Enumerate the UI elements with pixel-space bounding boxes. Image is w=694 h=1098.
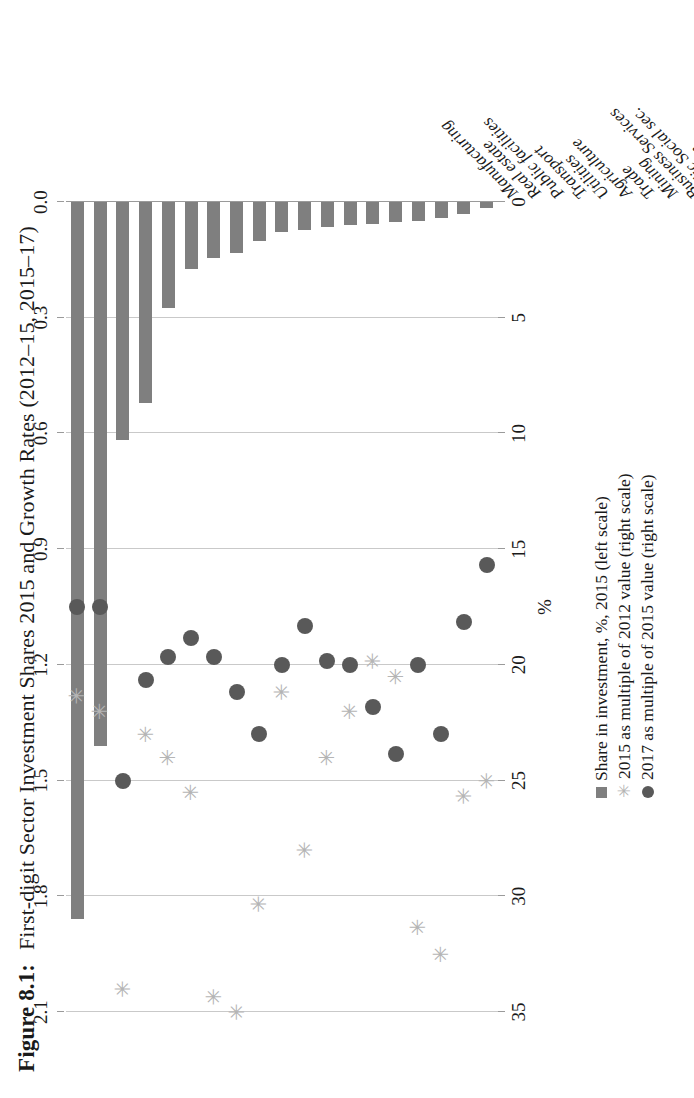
right-axis-tick-label: 0.3 bbox=[30, 306, 52, 330]
figure: Figure 8.1: First-digit Sector Investmen… bbox=[0, 0, 694, 1098]
tick-mark bbox=[57, 548, 64, 549]
bar-share-2015 bbox=[116, 202, 129, 440]
legend-item: Share in investment, %, 2015 (left scale… bbox=[590, 473, 613, 798]
marker-growth-2015-2017 bbox=[479, 557, 495, 573]
legend: Share in investment, %, 2015 (left scale… bbox=[590, 473, 659, 798]
tick-mark bbox=[57, 432, 64, 433]
chart-row: ✳ bbox=[89, 202, 112, 1012]
chart-row: ✳ bbox=[293, 202, 316, 1012]
marker-growth-2015-2017 bbox=[229, 684, 245, 700]
legend-label: Share in investment, %, 2015 (left scale… bbox=[590, 496, 613, 781]
bar-share-2015 bbox=[275, 202, 288, 232]
legend-label: 2017 as multiple of 2015 value (right sc… bbox=[636, 474, 659, 780]
marker-growth-2015-2017 bbox=[410, 657, 426, 673]
chart-row: ✳ bbox=[430, 202, 453, 1012]
bar-share-2015 bbox=[185, 202, 198, 269]
chart-row: ✳ bbox=[66, 202, 89, 1012]
bar-share-2015 bbox=[366, 202, 379, 224]
bar-share-2015 bbox=[94, 202, 107, 746]
marker-growth-2015-2017 bbox=[297, 618, 313, 634]
marker-growth-2015-2017 bbox=[251, 726, 267, 742]
bar-share-2015 bbox=[139, 202, 152, 403]
bar-share-2015 bbox=[207, 202, 220, 258]
right-axis-tick-label: 1.2 bbox=[30, 653, 52, 677]
chart-row: ✳ bbox=[407, 202, 430, 1012]
bar-share-2015 bbox=[457, 202, 470, 214]
marker-growth-2015-2017 bbox=[388, 746, 404, 762]
bar-share-2015 bbox=[298, 202, 311, 230]
circle-icon bbox=[642, 786, 654, 798]
chart-row: ✳ bbox=[384, 202, 407, 1012]
right-axis-tick-label: 0.6 bbox=[30, 422, 52, 446]
marker-growth-2015-2017 bbox=[115, 773, 131, 789]
bar-share-2015 bbox=[412, 202, 425, 221]
bar-share-2015 bbox=[321, 202, 334, 227]
marker-growth-2015-2017 bbox=[160, 649, 176, 665]
tick-mark bbox=[57, 317, 64, 318]
square-icon bbox=[596, 787, 607, 798]
legend-label: 2015 as multiple of 2012 value (right sc… bbox=[613, 473, 636, 779]
right-axis-tick-label: 0.9 bbox=[30, 537, 52, 561]
chart-row: ✳ bbox=[225, 202, 248, 1012]
marker-growth-2015-2017 bbox=[433, 726, 449, 742]
bar-share-2015 bbox=[253, 202, 266, 241]
marker-growth-2015-2017 bbox=[365, 699, 381, 715]
marker-growth-2015-2017 bbox=[342, 657, 358, 673]
legend-item: 2017 as multiple of 2015 value (right sc… bbox=[636, 473, 659, 798]
marker-growth-2015-2017 bbox=[456, 614, 472, 630]
tick-mark bbox=[57, 664, 64, 665]
marker-growth-2015-2017 bbox=[69, 599, 85, 615]
right-axis-tick-label: 0.0 bbox=[30, 190, 52, 214]
bar-share-2015 bbox=[162, 202, 175, 308]
right-axis-tick-label: 1.5 bbox=[30, 769, 52, 793]
chart-row: ✳ bbox=[339, 202, 362, 1012]
tick-mark bbox=[57, 1011, 64, 1012]
marker-growth-2015-2017 bbox=[183, 630, 199, 646]
right-axis: 0.00.30.60.91.21.51.82.1 bbox=[30, 202, 64, 1012]
chart-row: ✳ bbox=[134, 202, 157, 1012]
bar-share-2015 bbox=[435, 202, 448, 218]
plot-area: ✳✳✳✳✳✳✳✳✳✳✳✳✳✳✳✳✳✳✳ bbox=[66, 202, 498, 1012]
chart-row: ✳ bbox=[202, 202, 225, 1012]
right-axis-tick-label: 2.1 bbox=[30, 1000, 52, 1024]
tick-mark bbox=[57, 780, 64, 781]
chart-row: ✳ bbox=[157, 202, 180, 1012]
tick-mark bbox=[57, 201, 64, 202]
chart-row: ✳ bbox=[271, 202, 294, 1012]
chart-row: ✳ bbox=[111, 202, 134, 1012]
bar-share-2015 bbox=[480, 202, 493, 208]
tick-mark bbox=[57, 895, 64, 896]
cross-icon: ✳ bbox=[616, 785, 633, 798]
bar-share-2015 bbox=[230, 202, 243, 253]
right-axis-tick-label: 1.8 bbox=[30, 884, 52, 908]
marker-growth-2015-2017 bbox=[274, 657, 290, 673]
data-rows: ✳✳✳✳✳✳✳✳✳✳✳✳✳✳✳✳✳✳✳ bbox=[66, 202, 498, 1012]
chart-row: ✳ bbox=[362, 202, 385, 1012]
chart-row: ✳ bbox=[453, 202, 476, 1012]
marker-growth-2015-2017 bbox=[92, 599, 108, 615]
marker-growth-2015-2017 bbox=[138, 672, 154, 688]
bar-share-2015 bbox=[71, 202, 84, 919]
chart-row: ✳ bbox=[248, 202, 271, 1012]
bar-share-2015 bbox=[344, 202, 357, 225]
legend-item: ✳2015 as multiple of 2012 value (right s… bbox=[613, 473, 636, 798]
marker-growth-2015-2017 bbox=[319, 653, 335, 669]
chart-row: ✳ bbox=[475, 202, 498, 1012]
marker-growth-2015-2017 bbox=[206, 649, 222, 665]
chart-row: ✳ bbox=[180, 202, 203, 1012]
bar-share-2015 bbox=[389, 202, 402, 222]
chart-row: ✳ bbox=[316, 202, 339, 1012]
